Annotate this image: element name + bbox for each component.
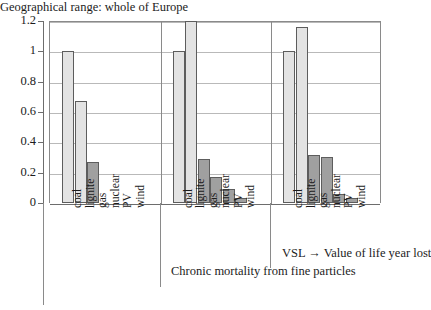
category-label-group-2-pv: PV bbox=[233, 193, 245, 208]
category-label-group-1-nuclear: nuclear bbox=[110, 174, 122, 208]
category-label-group-3-wind: wind bbox=[356, 185, 368, 208]
group-separator bbox=[161, 22, 162, 204]
y-tick-label: 1 bbox=[0, 44, 36, 57]
gridline bbox=[50, 22, 380, 23]
category-label-group-2-lignite: lignite bbox=[195, 179, 207, 208]
category-label-group-3-gas: gas bbox=[318, 193, 330, 208]
bar-group-1-coal bbox=[62, 51, 74, 203]
category-label-group-1-wind: wind bbox=[135, 185, 147, 208]
bar-group-2-coal bbox=[173, 51, 185, 203]
category-label-group-2-nuclear: nuclear bbox=[220, 174, 232, 208]
annotation-chronic-mortality: Chronic mortality from fine particles bbox=[171, 264, 356, 278]
y-tick-label: 1.2 bbox=[0, 14, 36, 27]
category-label-group-1-pv: PV bbox=[122, 193, 134, 208]
y-tick-label: 0.2 bbox=[0, 166, 36, 179]
separator-tail-3 bbox=[270, 203, 271, 268]
y-tick-mark bbox=[38, 112, 44, 113]
y-tick-mark bbox=[38, 51, 44, 52]
category-label-group-1-gas: gas bbox=[97, 193, 109, 208]
y-tick-mark bbox=[38, 173, 44, 174]
category-label-group-3-pv: PV bbox=[343, 193, 355, 208]
y-tick-label: 0.6 bbox=[0, 105, 36, 118]
annotation-geographical-range: Geographical range: whole of Europe bbox=[0, 0, 188, 14]
bar-group-3-coal bbox=[283, 51, 295, 203]
category-label-group-2-wind: wind bbox=[245, 185, 257, 208]
y-tick-mark bbox=[38, 142, 44, 143]
y-tick-label: 0.4 bbox=[0, 135, 36, 148]
separator-tail-2 bbox=[160, 203, 161, 287]
separator-tail-1 bbox=[43, 203, 44, 305]
group-separator bbox=[271, 22, 272, 204]
bar-group-3-lignite bbox=[296, 27, 308, 203]
category-label-group-1-lignite: lignite bbox=[85, 179, 97, 208]
bar-group-2-lignite bbox=[185, 21, 197, 203]
gridline bbox=[50, 143, 380, 144]
category-label-group-2-gas: gas bbox=[208, 193, 220, 208]
gridline bbox=[50, 113, 380, 114]
category-label-group-3-nuclear: nuclear bbox=[331, 174, 343, 208]
category-label-group-1-coal: coal bbox=[72, 189, 84, 208]
y-tick-mark bbox=[38, 82, 44, 83]
y-tick-label: 0 bbox=[0, 196, 36, 209]
y-tick-label: 0.8 bbox=[0, 75, 36, 88]
bar-chart: 00.20.40.60.811.2 coallignitegasnuclearP… bbox=[0, 0, 431, 310]
y-tick-mark bbox=[38, 21, 44, 22]
gridline bbox=[50, 52, 380, 53]
category-label-group-3-coal: coal bbox=[293, 189, 305, 208]
category-label-group-2-coal: coal bbox=[183, 189, 195, 208]
category-label-group-3-lignite: lignite bbox=[306, 179, 318, 208]
annotation-vsl: VSL → Value of life year lost bbox=[282, 246, 431, 260]
gridline bbox=[50, 83, 380, 84]
